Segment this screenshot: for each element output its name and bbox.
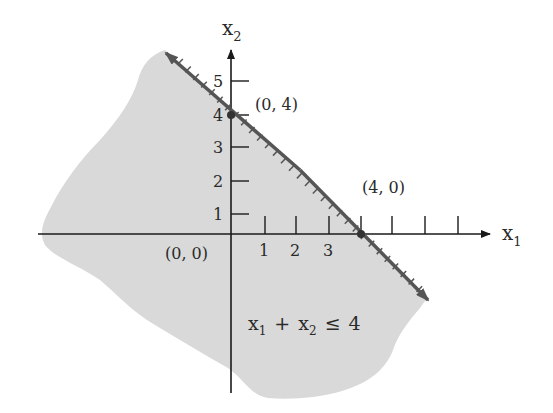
x2-tick-label-3: 3 bbox=[213, 138, 223, 157]
x2-tick-label-4: 4 bbox=[213, 106, 223, 125]
inequality-graph: x2 x1 1 2 3 1 2 3 4 5 (0, 0) (0, 4) (4, … bbox=[0, 0, 553, 413]
x1-axis-label: x1 bbox=[502, 221, 522, 249]
shaded-feasible-region bbox=[42, 50, 428, 399]
x1-tick-label-3: 3 bbox=[323, 241, 333, 260]
x2-tick-label-5: 5 bbox=[213, 72, 223, 91]
point-label-0-4: (0, 4) bbox=[255, 95, 298, 114]
x1-tick-label-2: 2 bbox=[290, 241, 300, 260]
point-4-0-marker bbox=[357, 230, 365, 238]
x1-tick-label-1: 1 bbox=[259, 241, 269, 260]
point-0-4-marker bbox=[227, 111, 235, 119]
x2-axis-label: x2 bbox=[222, 16, 242, 44]
x2-tick-label-2: 2 bbox=[213, 172, 223, 191]
point-label-4-0: (4, 0) bbox=[362, 178, 405, 197]
x2-tick-label-1: 1 bbox=[213, 205, 223, 224]
point-label-origin: (0, 0) bbox=[165, 244, 208, 263]
